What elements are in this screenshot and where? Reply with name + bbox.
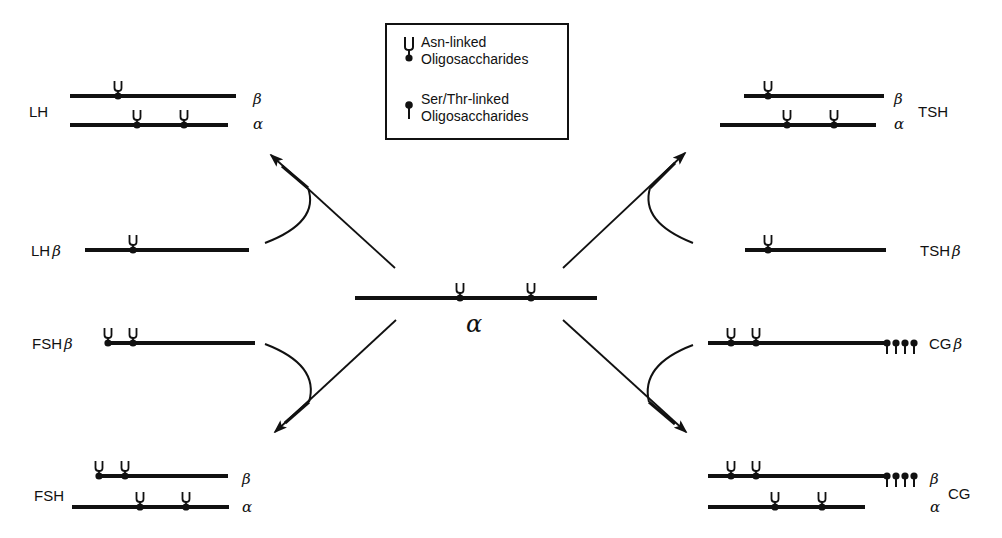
asn-linked-fork-icon [95,461,102,480]
arrow-to-fsh [265,320,396,432]
lh-beta-label: LHβ [31,242,61,260]
cg-beta-tag: β [930,472,939,487]
tsh-label: TSH [918,104,948,119]
tsh-beta-label: TSHβ [920,242,961,260]
fsh-beta-label: FSHβ [32,335,73,353]
center-alpha-chain [355,283,597,302]
asn-linked-fork-icon [136,492,143,511]
arrow-to-tsh [563,153,693,268]
legend-ser-line1: Ser/Thr-linked [421,91,528,108]
cg-alpha-tag: α [930,500,940,515]
asn-linked-fork-icon [727,461,734,480]
asn-linked-fork-icon [727,328,734,347]
ser-thr-linked-pin-icon [883,339,890,354]
asn-linked-fork-icon [771,492,778,511]
ser-thr-linked-pin-icon [910,472,917,487]
cg-beta-greek: β [954,335,963,353]
fsh-label: FSH [34,488,64,503]
cg-label: CG [948,486,971,501]
asn-linked-fork-icon [399,35,419,65]
asn-linked-fork-icon [764,81,771,100]
fsh-alpha-tag: α [242,500,252,515]
tsh-beta-greek: β [952,242,961,260]
legend-ser-line2: Oligosaccharides [421,108,528,125]
fsh-beta-tag: β [242,472,251,487]
tsh-beta-tag: β [894,92,903,107]
cg-beta-chain [708,328,918,354]
tsh-alpha-tag: α [894,117,904,132]
asn-linked-fork-icon [104,328,111,347]
ser-thr-linked-pin-icon [892,472,899,487]
tsh-beta-chain [745,235,886,254]
lh-beta-tag: β [253,92,262,107]
asn-linked-fork-icon [752,328,759,347]
tsh-heterodimer [720,81,884,129]
cg-beta-name: CG [929,335,952,352]
center-alpha-label: α [466,312,482,336]
asn-linked-fork-icon [133,110,140,129]
asn-linked-fork-icon [764,235,771,254]
fsh-beta-name: FSH [32,335,62,352]
fsh-beta-greek: β [64,335,73,353]
ser-thr-linked-pin-icon [883,472,890,487]
asn-linked-fork-icon [129,235,136,254]
ser-thr-linked-pin-icon [901,472,908,487]
fsh-beta-chain [104,328,255,347]
asn-linked-fork-icon [114,81,121,100]
asn-linked-fork-icon [121,461,128,480]
asn-linked-fork-icon [182,492,189,511]
cg-beta-label: CGβ [929,335,962,353]
lh-beta-chain [85,235,249,254]
ser-thr-linked-pin-icon [901,339,908,354]
lh-alpha-tag: α [253,117,263,132]
asn-linked-fork-icon [830,110,837,129]
fsh-heterodimer [72,461,229,511]
lh-heterodimer [70,81,236,129]
ser-thr-linked-pin-icon [399,93,419,123]
lh-label: LH [29,104,48,119]
arrow-to-cg [563,320,693,432]
ser-thr-linked-pin-icon [892,339,899,354]
asn-linked-fork-icon [456,283,463,302]
legend-ser-label: Ser/Thr-linked Oligosaccharides [421,91,528,125]
legend-asn-line2: Oligosaccharides [421,51,528,68]
asn-linked-fork-icon [129,328,136,347]
legend-asn-label: Asn-linked Oligosaccharides [421,34,528,68]
tsh-beta-name: TSH [920,242,950,259]
asn-linked-fork-icon [818,492,825,511]
ser-thr-linked-pin-icon [910,339,917,354]
asn-linked-fork-icon [527,283,534,302]
cg-heterodimer [708,461,918,511]
asn-linked-fork-icon [180,110,187,129]
asn-linked-fork-icon [752,461,759,480]
legend-box: Asn-linked Oligosaccharides Ser/Thr-link… [385,23,569,140]
lh-beta-name: LH [31,242,50,259]
arrow-to-lh [265,155,395,268]
lh-beta-greek: β [52,242,61,260]
legend-asn-line1: Asn-linked [421,34,528,51]
asn-linked-fork-icon [783,110,790,129]
